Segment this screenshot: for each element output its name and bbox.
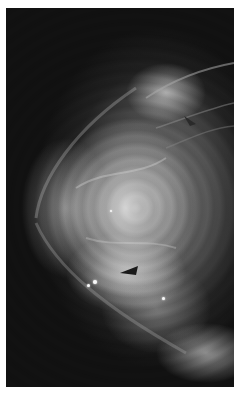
calcification (87, 284, 90, 287)
arrowhead-marker-upper-icon (182, 114, 198, 128)
arrowhead-marker-lower-icon (120, 264, 140, 276)
calcification (110, 210, 112, 212)
calcification (93, 280, 97, 284)
tissue-strands (6, 8, 234, 387)
mammogram-image (6, 8, 234, 387)
calcification (162, 297, 165, 300)
